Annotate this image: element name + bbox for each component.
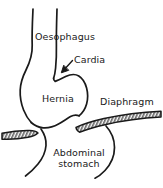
label-hernia: Hernia: [42, 94, 74, 105]
oesophagus-left-wall: [20, 9, 33, 123]
cardia-leader-arrow: [61, 61, 72, 73]
diaphragm-band-right: [76, 111, 161, 132]
label-diaphragm: Diaphragm: [100, 97, 154, 108]
oesophagus-right-wall: [54, 9, 57, 78]
hiatus-hernia-diagram: Oesophagus Cardia Hernia Diaphragm Abdom…: [0, 0, 163, 188]
label-cardia: Cardia: [74, 55, 105, 66]
hernia-sac-left-base: [31, 115, 79, 128]
label-oesophagus: Oesophagus: [35, 32, 95, 43]
diaphragm-band-left: [2, 131, 38, 140]
label-abdominal-stomach: Abdominal stomach: [48, 148, 110, 169]
